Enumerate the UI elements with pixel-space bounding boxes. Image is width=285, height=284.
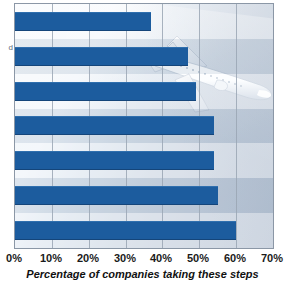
bar bbox=[15, 47, 188, 66]
bar bbox=[15, 82, 196, 101]
bar bbox=[15, 116, 214, 135]
gridline bbox=[236, 4, 237, 248]
x-tick-label: 10% bbox=[40, 252, 62, 264]
bar bbox=[15, 186, 218, 205]
gridline bbox=[273, 4, 274, 248]
x-tick-label: 20% bbox=[77, 252, 99, 264]
x-axis-ticks: 0%10%20%30%40%50%60%70% bbox=[14, 252, 274, 268]
x-tick-label: 30% bbox=[114, 252, 136, 264]
x-tick-label: 60% bbox=[224, 252, 246, 264]
x-tick-label: 40% bbox=[150, 252, 172, 264]
bar bbox=[15, 221, 236, 240]
plot-area bbox=[14, 3, 274, 249]
truncated-category-label: d bbox=[0, 40, 13, 56]
bar bbox=[15, 12, 151, 31]
x-axis-title: Percentage of companies taking these ste… bbox=[0, 268, 285, 280]
bar-chart-figure: d bbox=[0, 0, 285, 284]
x-tick-label: 0% bbox=[6, 252, 22, 264]
bar bbox=[15, 151, 214, 170]
x-tick-label: 70% bbox=[261, 252, 283, 264]
x-tick-label: 50% bbox=[187, 252, 209, 264]
